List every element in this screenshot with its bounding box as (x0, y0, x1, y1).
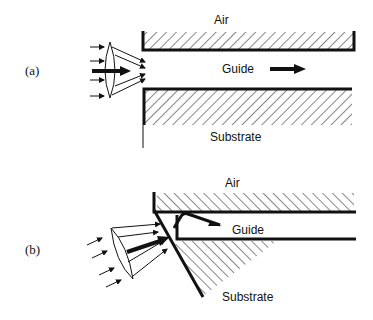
panel-a: (a) Air Guide Substrate (25, 13, 354, 148)
air-cladding-b (154, 192, 356, 212)
guided-beam-b (174, 214, 222, 229)
panel-a-air-label: Air (214, 13, 229, 27)
panel-b-guide-label: Guide (232, 223, 264, 237)
panel-b-air-label: Air (225, 176, 240, 190)
waveguide-coupling-diagram: (a) Air Guide Substrate (0, 0, 373, 320)
incident-rays-b (87, 224, 170, 287)
air-cladding-a (143, 31, 354, 50)
panel-b-label: (b) (25, 242, 40, 257)
panel-b: (b) Air Guide Substrate (25, 176, 356, 304)
guide-propagation-arrow-a (270, 64, 306, 74)
incident-rays-a (90, 47, 145, 96)
panel-a-label: (a) (25, 63, 39, 78)
panel-b-substrate-label: Substrate (222, 290, 274, 304)
panel-a-guide-label: Guide (222, 62, 254, 76)
panel-a-substrate-label: Substrate (210, 130, 262, 144)
